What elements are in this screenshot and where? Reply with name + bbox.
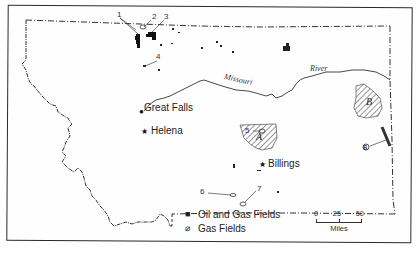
field-number-6: 6 xyxy=(200,187,204,196)
scale-tick-0: 0 xyxy=(314,209,318,218)
field-number-4: 4 xyxy=(156,52,160,61)
state-border-west xyxy=(22,20,172,226)
field-number-6-east: 6 xyxy=(363,143,367,152)
map-legend: ■ Oil and Gas Fields ⌀ Gas Fields xyxy=(185,207,280,235)
state-border-north xyxy=(26,20,390,27)
helena-capital-star: ★ xyxy=(141,127,148,136)
state-border-east xyxy=(390,26,395,214)
river-label-river: River xyxy=(310,64,327,73)
legend-item-oil-gas: ■ Oil and Gas Fields xyxy=(185,207,280,221)
field-number-1: 1 xyxy=(117,10,121,19)
area-letter-b: B xyxy=(366,96,372,107)
gas-field-symbols xyxy=(140,25,369,206)
legend-label-oil-gas: Oil and Gas Fields xyxy=(198,209,280,220)
oil-field-cluster-1 xyxy=(135,34,140,48)
scale-tick-50: 50 xyxy=(356,209,364,218)
field-number-5: 5 xyxy=(245,126,249,135)
billings-star: ★ xyxy=(259,160,266,169)
city-helena: Helena xyxy=(151,125,183,136)
scale-tick-25: 25 xyxy=(333,209,341,218)
legend-label-gas: Gas Fields xyxy=(198,223,246,234)
gas-field-icon: ⌀ xyxy=(185,223,195,233)
east-elongated-field xyxy=(382,127,390,146)
scale-unit: Miles xyxy=(314,224,364,233)
scale-bar: 0 25 50 Miles xyxy=(314,209,364,233)
legend-item-gas: ⌀ Gas Fields xyxy=(185,221,280,235)
oil-field-cluster-3 xyxy=(146,32,156,40)
field-number-2: 2 xyxy=(152,12,156,21)
field-number-3: 3 xyxy=(164,12,168,21)
scale-bar-line xyxy=(316,219,362,223)
area-letter-a: A xyxy=(256,131,262,142)
oil-gas-field-icon: ■ xyxy=(185,209,195,219)
city-billings: Billings xyxy=(268,158,300,169)
city-great-falls: Great Falls xyxy=(144,102,193,113)
field-number-7: 7 xyxy=(257,184,261,193)
